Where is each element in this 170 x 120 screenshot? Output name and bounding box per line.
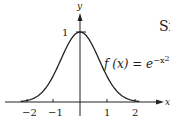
y-tick-label: 1 bbox=[62, 27, 68, 38]
y-axis-arrow-icon bbox=[78, 13, 83, 21]
x-tick-label: 1 bbox=[104, 107, 110, 118]
x-tick-label: −2 bbox=[22, 107, 37, 118]
formula-label: f (x) = e−x2 bbox=[103, 54, 169, 71]
x-axis-label: x bbox=[165, 97, 170, 107]
x-tick-label: −1 bbox=[48, 107, 63, 118]
x-axis-arrow-icon bbox=[156, 100, 164, 105]
gaussian-chart: x y −2 −1 1 2 1 f (x) = e−x2 Si bbox=[0, 0, 170, 120]
side-text: Si bbox=[159, 18, 170, 34]
y-axis-label: y bbox=[76, 1, 83, 11]
x-tick-label: 2 bbox=[132, 107, 138, 118]
